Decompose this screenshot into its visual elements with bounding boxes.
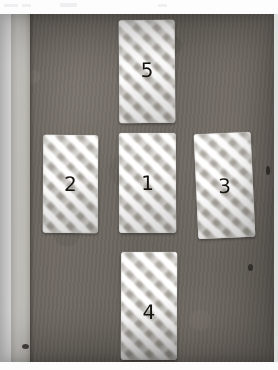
dark-speck	[248, 264, 253, 271]
swatch-card-3[interactable]: 3	[194, 132, 256, 239]
swatch-card-2[interactable]: 2	[43, 135, 99, 233]
swatch-number-label: 1	[119, 133, 176, 233]
right-page-margin	[274, 14, 278, 362]
dark-speck	[22, 344, 29, 349]
swatch-number-label: 2	[43, 135, 99, 233]
swatch-number-label: 4	[121, 258, 177, 360]
photograph: 5 2 1 3 4	[0, 14, 278, 362]
swatch-card-4[interactable]: 4	[121, 252, 177, 360]
scan-artifact-smudge	[60, 3, 77, 7]
swatch-number-label: 3	[194, 132, 256, 239]
left-strip-shadow-edge	[30, 14, 34, 362]
scan-artifact-smudge	[158, 4, 167, 7]
scan-artifact-smudge	[4, 4, 18, 7]
left-light-strip	[11, 14, 30, 362]
dark-speck	[266, 166, 270, 175]
scan-artifact-smudge	[22, 4, 31, 7]
bottom-page-margin	[0, 362, 278, 370]
swatch-card-1[interactable]: 1	[119, 133, 176, 233]
left-page-margin	[0, 14, 11, 362]
photo-scene: 5 2 1 3 4	[0, 0, 278, 370]
swatch-card-5[interactable]: 5	[119, 20, 176, 123]
swatch-number-label: 5	[119, 20, 176, 121]
